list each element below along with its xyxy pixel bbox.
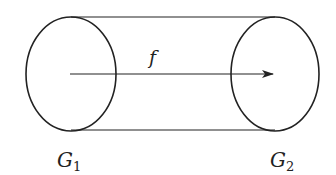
cylinder-diagram: f G1 G2 bbox=[0, 0, 336, 175]
map-label: f bbox=[147, 46, 159, 68]
right-set-label: G2 bbox=[270, 148, 294, 174]
left-set-label: G1 bbox=[57, 148, 81, 174]
